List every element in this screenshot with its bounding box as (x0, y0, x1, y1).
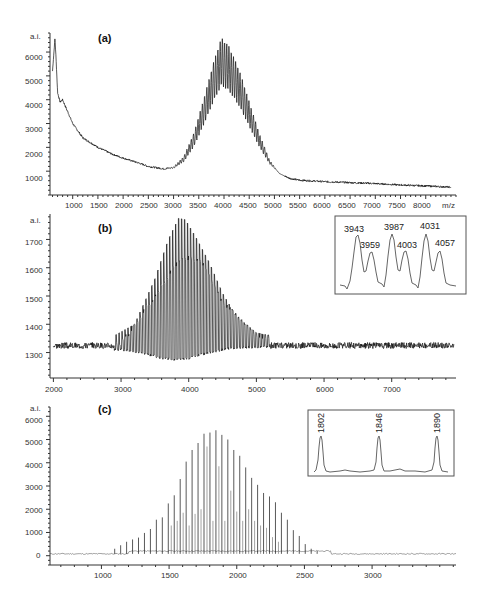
panel-a-label: (a) (98, 32, 112, 44)
panel-c-xticks: 1000 1500 2000 2500 3000 (94, 571, 382, 580)
panel-b-yticks: 1700 1600 1500 1400 1300 (25, 238, 43, 360)
panel-a-trace (53, 39, 451, 188)
x-tick-label: 5000 (264, 201, 282, 210)
x-tick-label: 6000 (313, 201, 331, 210)
x-tick-label: 1500 (161, 571, 179, 580)
y-tick-label: 0 (36, 551, 41, 560)
y-tick-label: 2000 (25, 506, 43, 515)
x-tick-label: 7000 (363, 201, 381, 210)
x-tick-label: 2000 (115, 201, 133, 210)
y-tick-label: 1400 (25, 323, 43, 332)
baseline (50, 551, 456, 555)
inset-peak-label: 3959 (360, 240, 380, 250)
y-tick-label: 1600 (25, 266, 43, 275)
x-tick-label: 7500 (388, 201, 406, 210)
x-tick-label: 3000 (164, 201, 182, 210)
panel-c-ylabel: a.i. (30, 404, 41, 413)
panel-c-inset: 1802 1846 1890 (308, 410, 454, 476)
x-tick-label: 6500 (338, 201, 356, 210)
y-tick-label: 3000 (25, 125, 43, 134)
x-tick-label: 2500 (296, 571, 314, 580)
x-tick-label: 7000 (383, 385, 401, 394)
panel-b-label: (b) (98, 222, 112, 234)
spectrum-line (53, 39, 451, 188)
panel-b: a.i. (b) 1700 1600 1500 1400 1300 2000 3… (25, 214, 466, 394)
x-tick-label: 3000 (364, 571, 382, 580)
y-tick-label: 5000 (25, 438, 43, 447)
panel-a: a.i. (a) 6000 5000 4000 3000 2000 1000 1… (25, 32, 456, 210)
panel-b-inset: 3943 3959 3987 4003 4031 4057 (335, 216, 466, 294)
inset-peak-label: 4003 (397, 240, 417, 250)
inset-peak-label: 3987 (384, 222, 404, 232)
x-tick-label: 6000 (316, 385, 334, 394)
x-tick-label: 4500 (239, 201, 257, 210)
y-tick-label: 6000 (25, 53, 43, 62)
y-tick-label: 6000 (25, 416, 43, 425)
panel-c: a.i. (c) 6000 5000 4000 3000 2000 1000 0… (25, 403, 456, 580)
x-tick-label: 5500 (289, 201, 307, 210)
x-tick-label: 2000 (229, 571, 247, 580)
panel-c-label: (c) (98, 403, 112, 415)
inset-peak-label: 4057 (435, 238, 455, 248)
x-tick-label: 1500 (90, 201, 108, 210)
panel-c-yticks: 6000 5000 4000 3000 2000 1000 0 (25, 416, 43, 560)
y-tick-label: 1700 (25, 238, 43, 247)
x-tick-label: 2000 (45, 385, 63, 394)
panel-a-xticks: 1000 1500 2000 2500 3000 3500 4000 4500 … (65, 201, 455, 210)
x-tick-label: 3500 (189, 201, 207, 210)
x-tick-label: 2500 (140, 201, 158, 210)
y-tick-label: 4000 (25, 461, 43, 470)
inset-peak-label: 1846 (374, 413, 384, 433)
y-tick-label: 5000 (25, 77, 43, 86)
x-tick-label: 1000 (94, 571, 112, 580)
y-tick-label: 1300 (25, 351, 43, 360)
x-tick-label: 5000 (248, 385, 266, 394)
panel-a-yticks: 6000 5000 4000 3000 2000 1000 (25, 53, 43, 183)
y-tick-label: 4000 (25, 101, 43, 110)
x-tick-label: 3000 (114, 385, 132, 394)
panel-b-xticks: 2000 3000 4000 5000 6000 7000 (45, 385, 401, 394)
x-tick-label: 8000 (413, 201, 431, 210)
inset-peak-label: 3943 (344, 224, 364, 234)
y-tick-label: 1000 (25, 528, 43, 537)
x-axis-unit: m/z (442, 201, 455, 210)
inset-peak-label: 4031 (420, 221, 440, 231)
y-tick-label: 1500 (25, 295, 43, 304)
mass-spectra-figure: a.i. (a) 6000 5000 4000 3000 2000 1000 1… (0, 0, 480, 600)
inset-peak-label: 1802 (316, 413, 326, 433)
panel-b-ylabel: a.i. (30, 216, 41, 225)
y-tick-label: 3000 (25, 483, 43, 492)
y-tick-label: 1000 (25, 174, 43, 183)
x-tick-label: 4000 (214, 201, 232, 210)
inset-peak-label: 1890 (432, 413, 442, 433)
axis-line (50, 33, 456, 195)
y-tick-label: 2000 (25, 150, 43, 159)
x-tick-label: 1000 (65, 201, 83, 210)
x-tick-label: 4000 (181, 385, 199, 394)
panel-a-ylabel: a.i. (30, 32, 41, 41)
